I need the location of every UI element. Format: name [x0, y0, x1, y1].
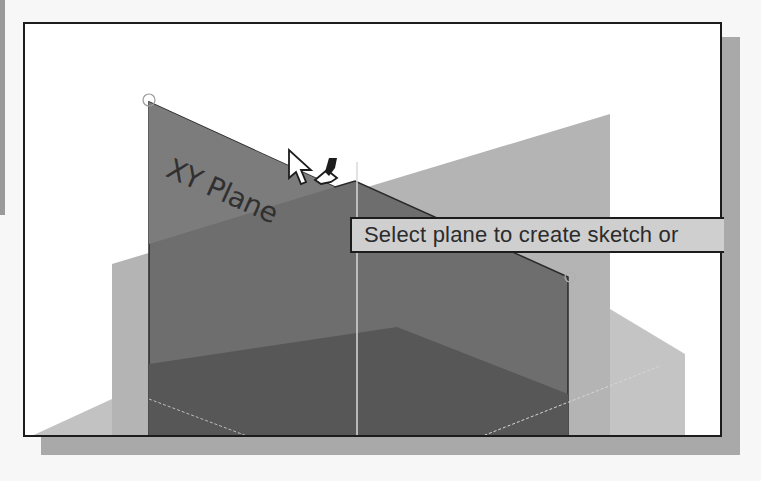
viewport-shadow-right: [722, 37, 740, 455]
zx-plane-right-light: [610, 309, 685, 437]
zx-plane-light-edge: [25, 399, 112, 437]
sketch-cursor-icon: [285, 148, 355, 198]
left-panel-edge: [0, 0, 5, 215]
viewport-shadow-bottom: [41, 437, 740, 455]
tooltip-select-plane: Select plane to create sketch or: [350, 217, 724, 253]
